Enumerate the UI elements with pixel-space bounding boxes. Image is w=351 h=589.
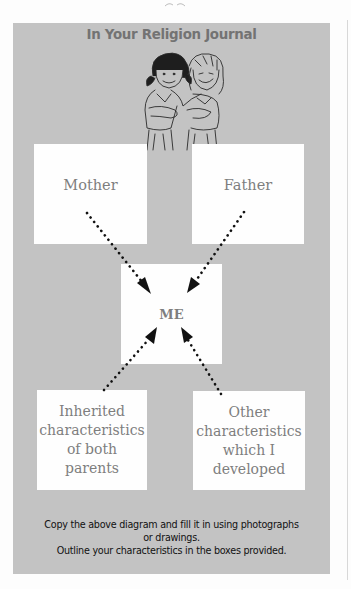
instructions-line-3: Outline your characteristics in the boxe… [13,544,330,557]
other-label-line-3: which I [196,441,301,460]
page-title: In Your Religion Journal [13,27,330,42]
instructions-line-1: Copy the above diagram and fill it in us… [13,518,330,531]
inherited-characteristics-box: Inherited characteristics of both parent… [37,390,147,490]
me-label: ME [159,307,183,322]
other-label-line-2: characteristics [196,422,301,441]
me-box: ME [121,264,222,364]
other-characteristics-box: Other characteristics which I developed [193,391,305,490]
instructions-text: Copy the above diagram and fill it in us… [13,518,330,557]
other-label-line-4: developed [196,460,301,479]
father-box: Father [192,144,304,244]
inherited-label-line-3: of both [39,440,144,459]
journal-panel: In Your Religion Journal [13,23,330,574]
inherited-label-line-2: characteristics [39,421,144,440]
two-children-illustration-icon [131,46,231,151]
inherited-label-line-1: Inherited [39,402,144,421]
mother-label: Mother [63,177,117,193]
other-label-line-1: Other [196,403,301,422]
instructions-line-2: or drawings. [13,531,330,544]
mother-box: Mother [34,144,147,244]
inherited-label-line-4: parents [39,459,144,478]
father-label: Father [224,177,272,193]
page-top-mark-icon [161,1,189,7]
page-edge-rule [347,20,348,580]
